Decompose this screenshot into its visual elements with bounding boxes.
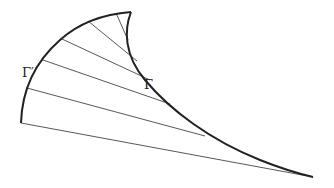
involute-label: Γ′ bbox=[22, 65, 34, 80]
tangent-rays bbox=[21, 13, 313, 177]
involute-curve bbox=[21, 12, 131, 123]
involute-diagram: Γ′ Γ bbox=[0, 0, 334, 188]
evolute-curve bbox=[127, 12, 313, 177]
tangent-ray bbox=[62, 39, 150, 80]
evolute-label: Γ bbox=[144, 77, 153, 92]
tangent-ray bbox=[21, 123, 313, 177]
